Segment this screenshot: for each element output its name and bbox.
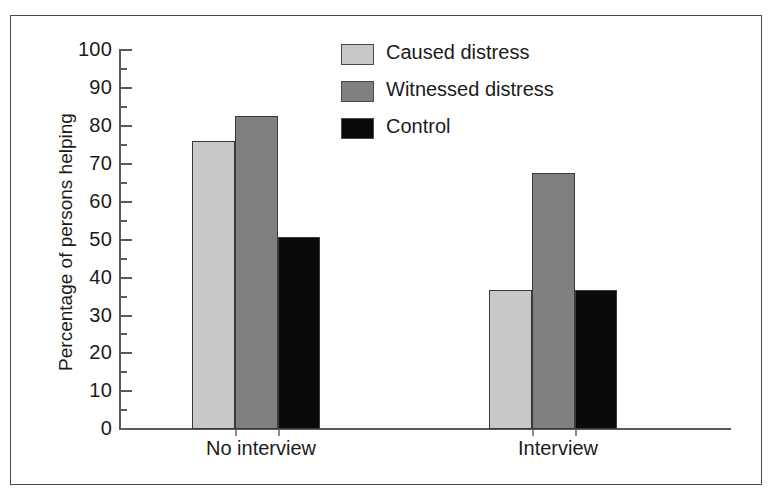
y-tick-label-60: 60 <box>72 190 112 213</box>
bar-interview-control[interactable] <box>575 290 617 429</box>
y-tick-label-50: 50 <box>72 228 112 251</box>
y-tick-45 <box>119 258 127 260</box>
y-tick-65 <box>119 182 127 184</box>
y-tick-20 <box>119 352 132 354</box>
x-tick-mark-2 <box>278 430 280 436</box>
y-tick-label-70: 70 <box>72 152 112 175</box>
y-tick-80 <box>119 125 132 127</box>
y-tick-label-30: 30 <box>72 304 112 327</box>
y-tick-5 <box>119 409 127 411</box>
legend-label-caused-distress: Caused distress <box>386 41 529 64</box>
y-tick-15 <box>119 371 127 373</box>
y-tick-100 <box>119 49 132 51</box>
y-tick-10 <box>119 390 132 392</box>
y-tick-label-10: 10 <box>72 379 112 402</box>
legend-label-control: Control <box>386 115 450 138</box>
legend-swatch-icon-control <box>341 118 374 139</box>
bar-chart-plot: Percentage of persons helping 100 90 80 <box>0 0 773 502</box>
x-tick-mark-4 <box>575 430 577 436</box>
y-tick-30 <box>119 315 132 317</box>
figure-canvas: Percentage of persons helping 100 90 80 <box>0 0 773 502</box>
y-tick-label-80: 80 <box>72 114 112 137</box>
y-tick-70 <box>119 163 132 165</box>
y-tick-75 <box>119 144 127 146</box>
y-tick-25 <box>119 333 127 335</box>
y-tick-55 <box>119 220 127 222</box>
y-tick-85 <box>119 106 127 108</box>
y-tick-40 <box>119 277 132 279</box>
bar-no-interview-witnessed-distress[interactable] <box>235 116 278 429</box>
bar-no-interview-control[interactable] <box>278 237 320 429</box>
legend-swatch-icon-caused-distress <box>341 44 374 65</box>
x-tick-mark-3 <box>532 430 534 436</box>
x-tick-mark-1 <box>235 430 237 436</box>
bar-interview-witnessed-distress[interactable] <box>532 173 575 429</box>
y-tick-95 <box>119 68 127 70</box>
y-tick-label-0: 0 <box>72 417 112 440</box>
x-group-label-no-interview: No interview <box>176 437 346 460</box>
y-tick-label-40: 40 <box>72 266 112 289</box>
y-tick-label-20: 20 <box>72 341 112 364</box>
bar-interview-caused-distress[interactable] <box>489 290 532 429</box>
y-tick-50 <box>119 239 132 241</box>
legend-swatch-icon-witnessed-distress <box>341 81 374 102</box>
y-tick-90 <box>119 87 132 89</box>
legend-label-witnessed-distress: Witnessed distress <box>386 78 554 101</box>
y-tick-label-90: 90 <box>72 76 112 99</box>
y-tick-60 <box>119 201 132 203</box>
y-tick-35 <box>119 296 127 298</box>
bar-no-interview-caused-distress[interactable] <box>192 141 235 429</box>
x-group-label-interview: Interview <box>473 437 643 460</box>
y-tick-label-100: 100 <box>72 38 112 61</box>
